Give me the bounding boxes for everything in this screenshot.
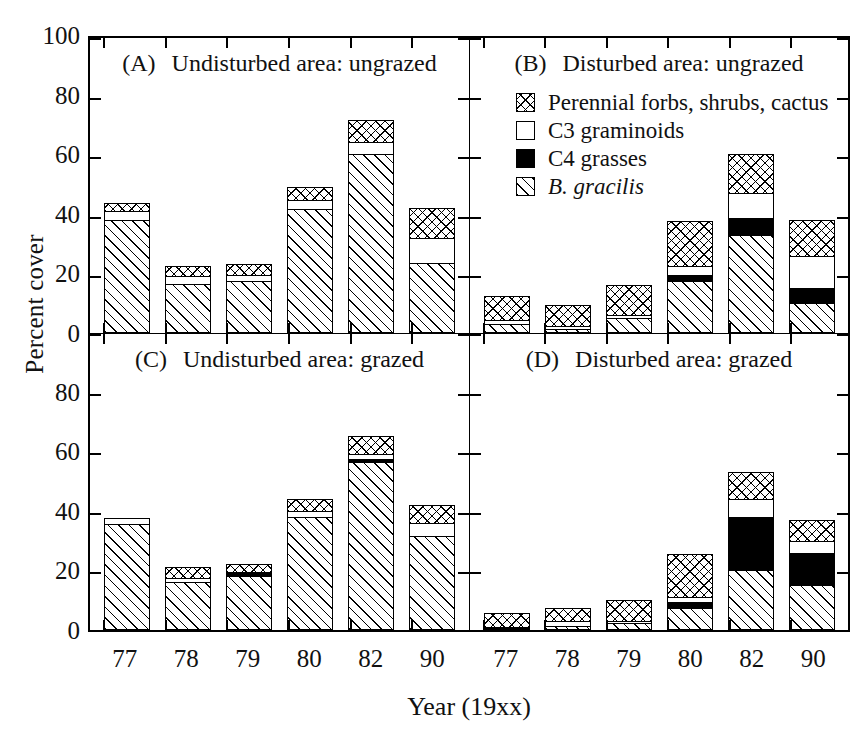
y-axis-tick-labels: 100806040200806040200: [20, 0, 80, 742]
x-tick-mark: [790, 620, 792, 630]
x-tick-mark: [667, 334, 669, 344]
panel-a-plot-area: [90, 38, 469, 333]
x-tick-mark: [606, 620, 608, 630]
legend-label: C3 graminoids: [548, 117, 684, 144]
y-tick-mark: [458, 334, 469, 336]
bar-segment-perennial: [348, 120, 394, 142]
bar-segment-bgracilis: [484, 628, 530, 630]
bar-segment-perennial: [409, 208, 455, 238]
bar-segment-c4: [789, 553, 835, 586]
y-tick-mark: [458, 38, 469, 40]
bar-segment-bgracilis: [789, 303, 835, 333]
legend: Perennial forbs, shrubs, cactusC3 gramin…: [516, 88, 828, 200]
bar-segment-c3: [728, 499, 774, 517]
x-tick-mark: [483, 38, 485, 48]
y-tick-mark: [837, 513, 848, 515]
x-tick-mark: [288, 323, 290, 333]
x-tick-mark: [606, 334, 608, 344]
y-tick-mark: [458, 98, 469, 100]
figure-stacked-bar-percent-cover: Percent cover 100806040200806040200 (A)U…: [0, 0, 865, 742]
y-tick-label-0: 0: [34, 321, 80, 346]
y-tick-mark: [458, 217, 469, 219]
legend-swatch-icon: [516, 121, 535, 140]
x-tick-mark: [226, 323, 228, 333]
bar-segment-bgracilis: [348, 462, 394, 630]
bar-d-82: [728, 472, 774, 630]
bar-a-82: [348, 120, 394, 333]
x-tick-label-82: 82: [348, 645, 394, 679]
bar-segment-perennial: [667, 221, 713, 266]
y-tick-mark: [90, 513, 101, 515]
y-tick-mark: [470, 394, 481, 396]
y-tick-label-20: 20: [34, 261, 80, 286]
bar-segment-perennial: [728, 472, 774, 499]
bar-segment-c3: [165, 578, 211, 582]
legend-label: B. gracilis: [548, 173, 644, 200]
bar-segment-c3: [545, 326, 591, 329]
y-tick-mark: [837, 394, 848, 396]
x-tick-mark: [165, 620, 167, 630]
bar-segment-c3: [606, 621, 652, 622]
x-tick-mark: [350, 323, 352, 333]
bar-segment-bgracilis: [484, 324, 530, 333]
bar-segment-perennial: [667, 554, 713, 597]
panel-d: (D)Disturbed area: grazed: [469, 333, 850, 632]
y-tick-mark: [837, 217, 848, 219]
y-tick-mark: [90, 276, 101, 278]
x-tick-label-group-1: 777879808290: [469, 645, 850, 679]
bar-segment-perennial: [287, 499, 333, 511]
bar-segment-c3: [484, 627, 530, 628]
bar-d-78: [545, 608, 591, 630]
x-tick-mark: [226, 620, 228, 630]
bar-segment-c3: [165, 276, 211, 283]
bar-segment-c3: [667, 597, 713, 601]
x-tick-label-82: 82: [729, 645, 775, 679]
y-tick-mark: [837, 98, 848, 100]
bar-c-80: [287, 499, 333, 630]
bar-segment-bgracilis: [287, 517, 333, 630]
bar-segment-c4: [667, 602, 713, 608]
bar-a-90: [409, 208, 455, 333]
legend-swatch-icon: [516, 177, 535, 196]
bar-d-80: [667, 554, 713, 630]
bar-segment-c3: [789, 541, 835, 553]
bar-segment-c3: [484, 320, 530, 324]
bar-segment-c3: [287, 200, 333, 209]
y-tick-mark: [470, 453, 481, 455]
bar-c-78: [165, 567, 211, 630]
panel-c-plot-area: [90, 334, 469, 630]
y-tick-mark: [90, 217, 101, 219]
x-tick-mark: [350, 38, 352, 48]
x-tick-label-78: 78: [544, 645, 590, 679]
x-tick-mark: [544, 334, 546, 344]
x-tick-mark: [729, 334, 731, 344]
y-tick-mark: [90, 572, 101, 574]
y-tick-label-lower-40: 40: [34, 499, 80, 524]
panel-a-bars: [90, 38, 469, 333]
x-tick-mark: [606, 323, 608, 333]
y-tick-mark: [458, 572, 469, 574]
bar-segment-c3: [104, 518, 150, 524]
x-tick-mark: [411, 620, 413, 630]
y-tick-label-lower-60: 60: [34, 439, 80, 464]
bar-segment-c4: [789, 288, 835, 303]
x-tick-mark: [350, 334, 352, 344]
legend-label: Perennial forbs, shrubs, cactus: [548, 89, 828, 116]
bar-segment-perennial: [545, 608, 591, 621]
x-tick-mark: [411, 334, 413, 344]
bar-segment-c3: [606, 315, 652, 318]
x-axis-tick-labels: 777879808290777879808290: [88, 645, 850, 679]
x-tick-label-79: 79: [606, 645, 652, 679]
bar-d-77: [484, 613, 530, 630]
x-tick-label-77: 77: [483, 645, 529, 679]
x-tick-mark: [226, 334, 228, 344]
y-tick-mark: [90, 98, 101, 100]
x-tick-mark: [606, 38, 608, 48]
x-tick-label-90: 90: [409, 645, 455, 679]
x-tick-mark: [288, 38, 290, 48]
bar-segment-c3: [348, 454, 394, 458]
bar-segment-c3: [226, 275, 272, 281]
y-tick-mark: [90, 394, 101, 396]
bar-c-79: [226, 564, 272, 630]
bar-segment-perennial: [348, 436, 394, 454]
